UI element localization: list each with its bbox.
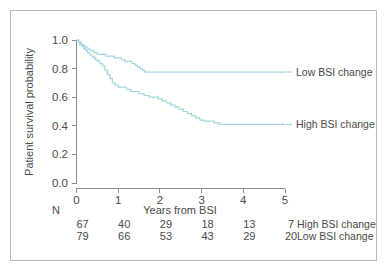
y-tick-label-2: 0.4 [52, 120, 69, 132]
risk-table-header-n: N [52, 204, 60, 216]
x-tick-label-0: 0 [73, 194, 79, 206]
risk-value-r0-c3: 18 [201, 218, 213, 230]
x-axis-title: Years from BSI [143, 204, 217, 216]
km-curves [77, 40, 286, 124]
risk-row-label-high-bsi-change: High BSI change [297, 218, 376, 230]
series-inline-labels: Low BSI changeHigh BSI change [286, 66, 375, 130]
x-tick-label-1: 1 [115, 194, 121, 206]
y-axis-tick-labels: 0.00.20.40.60.81.0 [52, 34, 69, 189]
y-tick-label-4: 0.8 [52, 63, 68, 75]
risk-value-r0-c2: 29 [160, 218, 172, 230]
y-axis-title: Patient survival probability [23, 48, 35, 176]
risk-row-label-low-bsi-change: Low BSI change [297, 230, 374, 242]
figure-root: 0.00.20.40.60.81.0 Patient survival prob… [0, 0, 389, 275]
risk-value-r1-c1: 66 [118, 230, 130, 242]
x-tick-label-5: 5 [282, 194, 288, 206]
x-tick-label-4: 4 [240, 194, 247, 206]
y-tick-label-5: 1.0 [52, 34, 68, 46]
risk-value-r0-c1: 40 [118, 218, 130, 230]
series-label-high-bsi-change: High BSI change [296, 118, 375, 130]
risk-value-r1-c5: 20 [285, 230, 297, 242]
risk-table: 67402918137High BSI change796653432920Lo… [76, 218, 376, 242]
y-tick-label-0: 0.0 [52, 177, 68, 189]
x-axis-ticks [77, 189, 286, 194]
y-tick-label-3: 0.6 [52, 91, 68, 103]
risk-value-r1-c3: 43 [201, 230, 213, 242]
survival-chart: 0.00.20.40.60.81.0 Patient survival prob… [0, 0, 389, 275]
risk-value-r1-c2: 53 [160, 230, 172, 242]
series-label-low-bsi-change: Low BSI change [296, 66, 373, 78]
y-axis-ticks [72, 40, 77, 183]
risk-value-r0-c4: 13 [243, 218, 255, 230]
risk-value-r0-c0: 67 [76, 218, 88, 230]
y-tick-label-1: 0.2 [52, 148, 68, 160]
km-curve-low-bsi-change [77, 40, 286, 72]
risk-value-r1-c4: 29 [243, 230, 255, 242]
km-curve-high-bsi-change [77, 40, 286, 124]
risk-value-r0-c5: 7 [288, 218, 294, 230]
risk-value-r1-c0: 79 [76, 230, 88, 242]
